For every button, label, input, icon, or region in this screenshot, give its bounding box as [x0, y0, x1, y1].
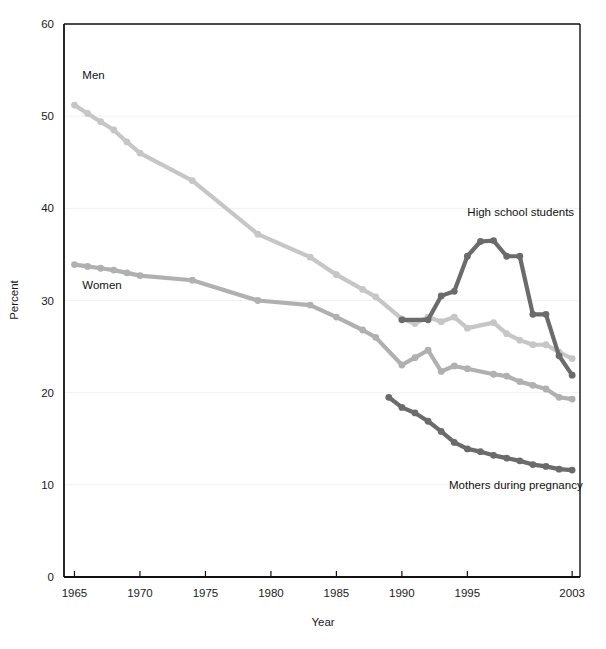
x-tick-label: 1985 [324, 587, 350, 599]
data-point [464, 445, 471, 452]
data-point [543, 311, 550, 318]
data-point [464, 365, 471, 372]
data-point [123, 269, 130, 276]
data-point [97, 118, 104, 125]
data-point [71, 261, 78, 268]
y-tick-label: 20 [41, 387, 54, 399]
data-point [451, 363, 458, 370]
data-point [372, 293, 379, 300]
x-tick-label: 1970 [127, 587, 153, 599]
x-tick-label: 1980 [258, 587, 284, 599]
y-tick-label: 0 [48, 571, 54, 583]
data-point [569, 372, 576, 379]
data-point [438, 292, 445, 299]
data-point [71, 102, 78, 109]
annotation-label: Women [82, 279, 121, 291]
data-point [464, 325, 471, 332]
data-point [556, 394, 563, 401]
data-point [189, 277, 196, 284]
x-tick-label: 1975 [193, 587, 219, 599]
line-chart: 19651970197519801985199019952003 0102030… [0, 0, 606, 649]
data-point [503, 373, 510, 380]
data-point [451, 439, 458, 446]
data-point [543, 463, 550, 470]
data-point [307, 302, 314, 309]
y-tick-label: 60 [41, 18, 54, 30]
data-point [438, 368, 445, 375]
data-point [477, 238, 484, 245]
data-point [385, 394, 392, 401]
data-point [516, 253, 523, 260]
data-point [490, 452, 497, 459]
data-point [254, 231, 261, 238]
data-point [490, 237, 497, 244]
y-tick-label: 30 [41, 295, 54, 307]
chart-background [0, 0, 606, 649]
data-point [516, 378, 523, 385]
data-point [569, 467, 576, 474]
data-point [137, 150, 144, 157]
data-point [110, 267, 117, 274]
y-tick-label: 40 [41, 202, 54, 214]
data-point [543, 341, 550, 348]
x-tick-label: 1990 [389, 587, 415, 599]
x-tick-label: 1965 [62, 587, 88, 599]
data-point [556, 466, 563, 473]
data-point [451, 314, 458, 321]
x-tick-label: 1995 [455, 587, 481, 599]
data-point [333, 314, 340, 321]
data-point [569, 355, 576, 362]
data-point [189, 177, 196, 184]
data-point [398, 316, 405, 323]
annotation-label: Mothers during pregnancy [449, 479, 583, 491]
data-point [477, 448, 484, 455]
data-point [490, 371, 497, 378]
data-point [425, 347, 432, 354]
y-axis-title: Percent [8, 279, 20, 319]
data-point [359, 327, 366, 334]
data-point [425, 316, 432, 323]
data-point [464, 253, 471, 260]
data-point [529, 382, 536, 389]
data-point [438, 428, 445, 435]
data-point [516, 457, 523, 464]
data-point [333, 271, 340, 278]
data-point [372, 334, 379, 341]
y-tick-label: 10 [41, 479, 54, 491]
data-point [84, 110, 91, 117]
data-point [516, 337, 523, 344]
y-tick-label: 50 [41, 110, 54, 122]
data-point [503, 455, 510, 462]
chart-figure: 19651970197519801985199019952003 0102030… [0, 0, 606, 649]
data-point [412, 410, 419, 417]
data-point [398, 404, 405, 411]
data-point [438, 318, 445, 325]
data-point [529, 341, 536, 348]
data-point [529, 461, 536, 468]
x-axis-title: Year [311, 616, 334, 628]
data-point [556, 352, 563, 359]
data-point [412, 354, 419, 361]
data-point [398, 362, 405, 369]
data-point [569, 396, 576, 403]
data-point [529, 311, 536, 318]
data-point [307, 254, 314, 261]
data-point [254, 297, 261, 304]
data-point [137, 272, 144, 279]
data-point [359, 286, 366, 293]
data-point [503, 253, 510, 260]
data-point [123, 139, 130, 146]
data-point [110, 127, 117, 134]
data-point [451, 288, 458, 295]
data-point [490, 319, 497, 326]
x-tick-label: 2003 [559, 587, 585, 599]
data-point [84, 263, 91, 270]
data-point [425, 418, 432, 425]
data-point [97, 265, 104, 272]
annotation-label: High school students [467, 206, 574, 218]
data-point [503, 330, 510, 337]
data-point [543, 386, 550, 393]
annotation-label: Men [82, 69, 104, 81]
